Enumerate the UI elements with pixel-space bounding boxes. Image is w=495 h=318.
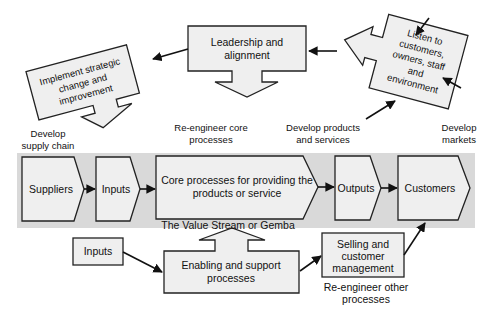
- customers-label: Customers: [405, 182, 456, 194]
- arrow-enabling-to-selling: [300, 256, 321, 271]
- caption-reengineer-other-2: processes: [342, 293, 390, 305]
- core-label-2: products or service: [193, 187, 282, 199]
- selling-label-1: Selling and: [337, 238, 389, 250]
- enabling-label-1: Enabling and support: [181, 259, 280, 271]
- enabling-label-2: processes: [207, 272, 255, 284]
- caption-develop-products-1: Develop products: [286, 122, 360, 133]
- bottom-inputs-box: Inputs: [73, 238, 123, 265]
- caption-value-stream: The Value Stream or Gemba: [161, 219, 295, 231]
- caption-develop-supply-chain-1: Develop: [31, 128, 66, 139]
- chevron-customers: Customers: [398, 156, 470, 220]
- bottom-inputs-label: Inputs: [84, 245, 113, 257]
- leadership-label-1: Leadership and: [211, 36, 284, 48]
- leadership-label-2: alignment: [224, 49, 270, 61]
- caption-reengineer-core-2: processes: [189, 134, 233, 145]
- chevron-suppliers: Suppliers: [22, 157, 84, 221]
- outputs-label: Outputs: [338, 182, 375, 194]
- caption-reengineer-other-1: Re-engineer other: [324, 281, 409, 293]
- caption-develop-markets-1: Develop: [442, 122, 477, 133]
- selling-label-2: customer: [341, 250, 385, 262]
- core-label-1: Core processes for providing the: [161, 174, 313, 186]
- inputs-label: Inputs: [102, 183, 131, 195]
- selling-box: Selling and customer management: [322, 233, 404, 277]
- enabling-callout: Enabling and support processes: [164, 228, 299, 293]
- caption-reengineer-core-1: Re-engineer core: [174, 122, 247, 133]
- caption-develop-supply-chain-2: supply chain: [22, 140, 75, 151]
- listen-callout: Listen to customers, owners, staff and e…: [334, 5, 468, 109]
- chevron-core-processes: Core processes for providing the product…: [156, 156, 318, 219]
- arrow-inputs-to-enabling: [123, 252, 162, 272]
- chevron-inputs: Inputs: [96, 157, 140, 221]
- caption-develop-markets-2: markets: [442, 134, 476, 145]
- leadership-callout: Leadership and alignment: [188, 26, 306, 97]
- selling-label-3: management: [332, 262, 393, 274]
- arrow-input-bottom: [366, 101, 395, 119]
- suppliers-label: Suppliers: [29, 183, 73, 195]
- value-stream-diagram: Leadership and alignment Implement strat…: [0, 0, 495, 318]
- arrow-leadership-to-implement: [153, 49, 188, 59]
- caption-develop-products-2: and services: [296, 134, 350, 145]
